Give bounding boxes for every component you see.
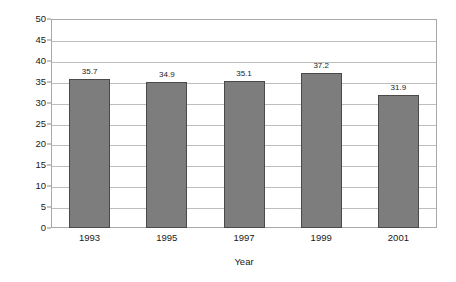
bar-group[interactable]: 35.1 (224, 19, 265, 228)
y-axis-tick-mark (47, 102, 51, 103)
y-axis-tick-mark (47, 186, 51, 187)
x-axis-title: Year (51, 256, 437, 267)
bar-group[interactable]: 31.9 (378, 19, 419, 228)
bar[interactable] (301, 73, 342, 228)
y-axis-tick-mark (47, 60, 51, 61)
bar[interactable] (224, 81, 265, 228)
bar-value-label: 34.9 (159, 71, 175, 79)
y-axis-tick-label: 25 (35, 119, 46, 129)
x-axis-tick-label: 2001 (388, 233, 409, 243)
bar[interactable] (69, 79, 110, 228)
y-axis-tick-label: 35 (35, 77, 46, 87)
y-axis-tick-label: 50 (35, 14, 46, 24)
x-axis-tick-label: 1997 (233, 233, 254, 243)
bar-group[interactable]: 35.7 (69, 19, 110, 228)
y-axis-tick-mark (47, 123, 51, 124)
y-axis-tick-mark (47, 207, 51, 208)
y-axis-tick-label: 45 (35, 35, 46, 45)
y-axis-tick-label: 30 (35, 98, 46, 108)
y-axis-tick-mark (47, 19, 51, 20)
y-axis-tick-mark (47, 144, 51, 145)
y-axis-tick-mark (47, 228, 51, 229)
bar-value-label: 35.7 (82, 68, 98, 76)
bar[interactable] (378, 95, 419, 228)
bar-value-label: 35.1 (236, 70, 252, 78)
y-axis-tick-label: 5 (41, 202, 46, 212)
bar-value-label: 31.9 (391, 84, 407, 92)
y-axis-tick-mark (47, 165, 51, 166)
bar-group[interactable]: 37.2 (301, 19, 342, 228)
bar-value-label: 37.2 (313, 62, 329, 70)
y-axis-tick-labels: 05101520253035404550 (24, 19, 46, 228)
y-axis-tick-mark (47, 81, 51, 82)
x-axis-tick-label: 1995 (156, 233, 177, 243)
bars-layer: 35.734.935.137.231.9 (51, 19, 437, 228)
y-axis-tick-label: 15 (35, 161, 46, 171)
bar[interactable] (146, 82, 187, 228)
y-axis-tick-mark (47, 39, 51, 40)
bar-chart: Percent 05101520253035404550 35.734.935.… (0, 0, 456, 282)
x-axis-title-label: Year (234, 256, 253, 267)
x-axis-tick-label: 1993 (79, 233, 100, 243)
y-axis-tick-label: 0 (41, 223, 46, 233)
x-axis-tick-labels: 19931995199719992001 (51, 233, 437, 249)
x-axis-tick-label: 1999 (311, 233, 332, 243)
y-axis-tick-label: 10 (35, 181, 46, 191)
y-axis-tick-label: 20 (35, 140, 46, 150)
y-axis-tick-label: 40 (35, 56, 46, 66)
bar-group[interactable]: 34.9 (146, 19, 187, 228)
